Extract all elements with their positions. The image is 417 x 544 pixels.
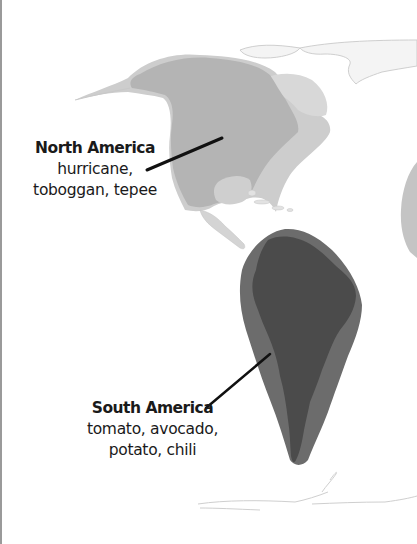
north-america-label: North America hurricane, toboggan, tepee <box>30 138 160 201</box>
north-america-words-line2: toboggan, tepee <box>30 180 160 201</box>
north-america-title: North America <box>30 138 160 159</box>
antarctica-outline <box>198 472 417 510</box>
world-map <box>0 0 417 544</box>
north-america-words-line1: hurricane, <box>30 159 160 180</box>
south-america-words-line1: tomato, avocado, <box>80 419 225 440</box>
south-america-words-line2: potato, chili <box>80 440 225 461</box>
africa-edge <box>401 162 417 258</box>
central-america-land <box>200 210 245 249</box>
south-america-label: South America tomato, avocado, potato, c… <box>80 398 225 461</box>
south-america-title: South America <box>80 398 225 419</box>
